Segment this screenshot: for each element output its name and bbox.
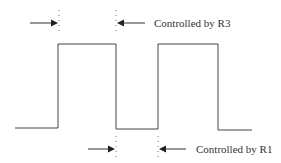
arrow-right-icon <box>88 146 115 153</box>
square-waveform <box>15 44 252 130</box>
arrow-left-icon <box>159 146 186 153</box>
label-r3: Controlled by R3 <box>154 17 230 29</box>
arrow-right-icon <box>30 20 58 27</box>
label-r1: Controlled by R1 <box>196 143 272 155</box>
square-wave-diagram <box>0 0 281 163</box>
arrow-left-icon <box>117 20 145 27</box>
